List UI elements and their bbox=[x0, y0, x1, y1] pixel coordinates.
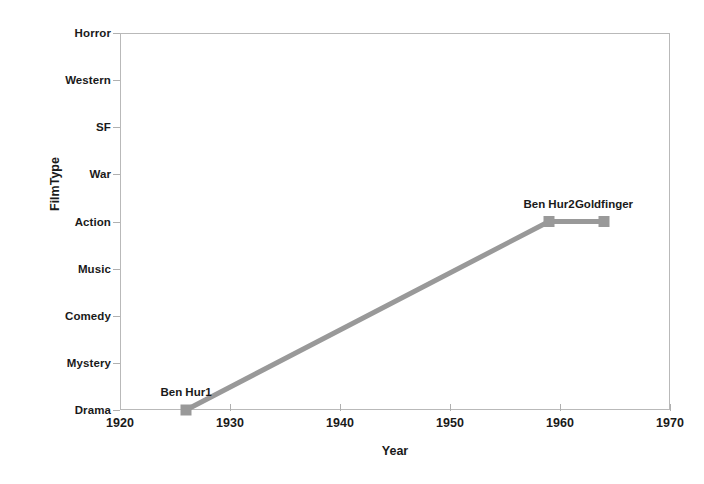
x-tick-label-1950: 1950 bbox=[410, 416, 490, 430]
x-tick-mark bbox=[230, 404, 231, 411]
y-tick-label-sf: SF bbox=[11, 121, 111, 133]
x-tick-label-1920: 1920 bbox=[80, 416, 160, 430]
y-tick-label-mystery: Mystery bbox=[11, 357, 111, 369]
x-tick-mark bbox=[670, 404, 671, 411]
x-tick-label-1970: 1970 bbox=[630, 416, 704, 430]
y-tick-label-drama: Drama bbox=[11, 404, 111, 416]
plot-area bbox=[120, 33, 670, 410]
film-type-by-year-chart: DramaMysteryComedyMusicActionWarSFWester… bbox=[0, 0, 704, 484]
y-axis-title: FilmType bbox=[48, 139, 62, 229]
point-label-ben-hur1: Ben Hur1 bbox=[160, 386, 211, 398]
point-label-ben-hur2: Ben Hur2 bbox=[523, 198, 574, 210]
y-axis-tick-labels: DramaMysteryComedyMusicActionWarSFWester… bbox=[0, 0, 111, 484]
y-tick-mark bbox=[113, 269, 120, 270]
x-tick-mark bbox=[340, 404, 341, 411]
x-axis-title: Year bbox=[120, 444, 670, 458]
y-tick-mark bbox=[113, 410, 120, 411]
x-tick-mark bbox=[560, 404, 561, 411]
y-tick-mark bbox=[113, 222, 120, 223]
y-tick-label-western: Western bbox=[11, 74, 111, 86]
x-tick-label-1930: 1930 bbox=[190, 416, 270, 430]
x-tick-label-1940: 1940 bbox=[300, 416, 380, 430]
y-tick-mark bbox=[113, 363, 120, 364]
point-label-goldfinger: Goldfinger bbox=[575, 198, 633, 210]
y-tick-mark bbox=[113, 80, 120, 81]
y-tick-mark bbox=[113, 127, 120, 128]
y-tick-mark bbox=[113, 33, 120, 34]
y-tick-label-horror: Horror bbox=[11, 27, 111, 39]
x-tick-label-1960: 1960 bbox=[520, 416, 600, 430]
y-tick-mark bbox=[113, 316, 120, 317]
y-tick-label-music: Music bbox=[11, 263, 111, 275]
y-tick-mark bbox=[113, 174, 120, 175]
x-tick-mark bbox=[450, 404, 451, 411]
y-tick-label-comedy: Comedy bbox=[11, 310, 111, 322]
